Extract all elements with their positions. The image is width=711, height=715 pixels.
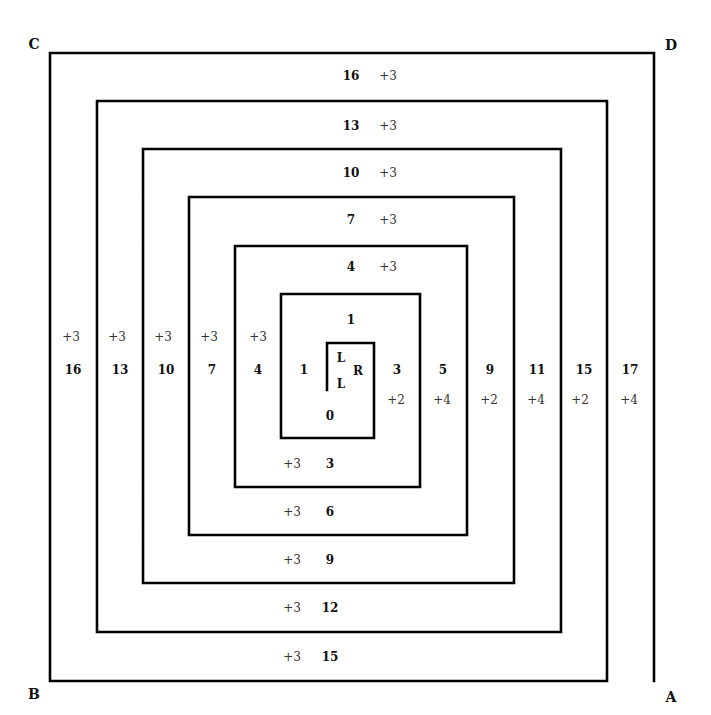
bottom-label-inc: +3: [283, 650, 301, 664]
bottom-label-num: 9: [326, 553, 334, 567]
left-label-num: 16: [65, 363, 82, 377]
right-label-num: 11: [529, 363, 546, 377]
right-label-inc: +4: [527, 393, 545, 407]
top-label-num: 10: [343, 166, 360, 180]
right-label-inc: +4: [433, 393, 451, 407]
top-label-inc: +3: [379, 213, 397, 227]
right-label-inc: +2: [480, 393, 498, 407]
top-label-inc: +3: [379, 260, 397, 274]
right-label-num: 9: [486, 363, 494, 377]
top-label-inc: +3: [379, 119, 397, 133]
corner-label-a: A: [665, 689, 678, 705]
center-r: R: [353, 364, 364, 378]
bottom-label-num: 12: [322, 601, 339, 615]
left-label-num: 10: [158, 363, 175, 377]
right-label-num: 15: [576, 363, 593, 377]
left-label-inc: +3: [200, 330, 218, 344]
bottom-label-inc: +3: [283, 505, 301, 519]
right-label-num: 5: [439, 363, 447, 377]
top-label-num: 4: [347, 260, 355, 274]
right-label-num: 3: [393, 363, 401, 377]
bottom-label-num: 15: [322, 650, 339, 664]
center-label-bottom: 0: [326, 409, 334, 423]
spiral-diagram: C D B A 1 1 0 L R L 16 +3 13 +3 10 +3 7 …: [0, 0, 711, 715]
right-label-inc: +4: [620, 393, 638, 407]
bottom-label-inc: +3: [283, 601, 301, 615]
top-label-num: 13: [343, 119, 360, 133]
center-l-top: L: [337, 351, 346, 365]
top-label-num: 16: [343, 69, 360, 83]
center-label-left: 1: [300, 363, 308, 377]
center-l-bottom: L: [337, 377, 346, 391]
bottom-label-num: 3: [326, 457, 334, 471]
center-label-top: 1: [347, 313, 355, 327]
corner-label-d: D: [665, 37, 677, 53]
left-label-inc: +3: [249, 330, 267, 344]
left-label-inc: +3: [108, 330, 126, 344]
left-label-num: 4: [254, 363, 262, 377]
top-label-inc: +3: [379, 166, 397, 180]
bottom-label-inc: +3: [283, 553, 301, 567]
left-label-inc: +3: [154, 330, 172, 344]
corner-label-b: B: [28, 686, 40, 702]
right-label-inc: +2: [387, 393, 405, 407]
bottom-label-inc: +3: [283, 457, 301, 471]
right-label-num: 17: [622, 363, 639, 377]
left-label-inc: +3: [62, 330, 80, 344]
left-label-num: 13: [112, 363, 129, 377]
corner-label-c: C: [28, 36, 39, 52]
top-label-num: 7: [347, 213, 355, 227]
left-label-num: 7: [208, 363, 216, 377]
right-label-inc: +2: [571, 393, 589, 407]
spiral-path: [50, 53, 654, 681]
bottom-label-num: 6: [326, 505, 334, 519]
top-label-inc: +3: [379, 69, 397, 83]
